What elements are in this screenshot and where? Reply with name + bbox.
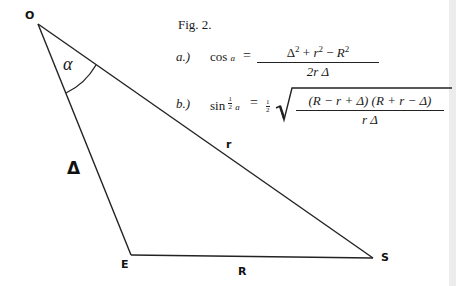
side-label-delta: Δ <box>67 158 80 178</box>
formula-b-equals: = <box>250 95 258 111</box>
figure-caption: Fig. 2. <box>178 17 212 33</box>
formula-a-lhs: cos a <box>210 49 235 65</box>
cos-fn: cos <box>210 49 227 64</box>
side-label-r: r <box>226 138 231 151</box>
formula-b-prefix: b.) <box>176 96 190 112</box>
vertex-label-s: S <box>381 251 389 264</box>
formula-a-numerator: Δ2 + r2 − R2 <box>257 45 379 63</box>
angle-label-alpha: α <box>63 54 72 75</box>
formula-a-denominator: 2r Δ <box>257 63 379 80</box>
vertex-label-e: E <box>121 258 129 271</box>
cos-arg: a <box>231 53 236 63</box>
formula-a-fraction: Δ2 + r2 − R2 2r Δ <box>257 45 379 80</box>
formula-b-coefficient: 1 2 <box>266 99 270 114</box>
sin-fn: sin <box>210 98 225 113</box>
formula-a-equals: = <box>243 48 251 64</box>
side-oe <box>38 24 131 255</box>
half-fraction: 1 2 <box>228 96 232 111</box>
sin-arg: a <box>235 102 240 112</box>
side-es <box>131 255 373 258</box>
formula-b-lhs: sin 1 2 a <box>210 96 240 114</box>
formula-b-numerator: (R − r + Δ) (R + r − Δ) <box>296 93 444 111</box>
vertex-label-o: O <box>25 9 34 22</box>
formula-b-fraction: (R − r + Δ) (R + r − Δ) r Δ <box>296 93 444 128</box>
formula-a-prefix: a.) <box>176 49 190 65</box>
side-label-R: R <box>238 265 246 278</box>
formula-b-denominator: r Δ <box>296 111 444 128</box>
